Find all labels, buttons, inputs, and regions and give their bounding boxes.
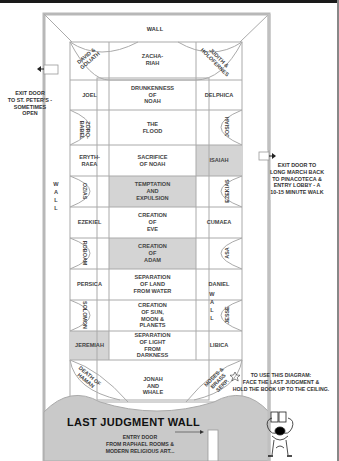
panel-creation-sun-moon: CREATION OF SUN, MOON & PLANETS <box>109 300 196 331</box>
right-jesse: JESSE <box>224 298 230 333</box>
entry-door-note: ENTRY DOOR FROM RAPHAEL ROOMS & MODERN R… <box>80 434 200 454</box>
panel-sacrifice-of-noah: SACRIFICE OF NOAH <box>109 145 196 176</box>
left-roboam: ROBOAM <box>82 236 88 271</box>
left-zorobabel: ZORO- BABEL <box>79 113 91 148</box>
right-asa: ASA <box>224 236 230 271</box>
left-joel: JOEL <box>70 80 109 110</box>
panel-jonah-whale: JONAH AND WHALE <box>120 372 186 400</box>
panel-creation-of-eve: CREATION OF EVE <box>109 207 196 238</box>
right-daniel: DANIEL <box>196 269 242 300</box>
right-cumaea: CUMAEA <box>196 207 242 238</box>
panel-the-flood: THE FLOOD <box>109 110 196 145</box>
instructions-note: TO USE THIS DIAGRAM: FACE THE LAST JUDGM… <box>222 372 339 392</box>
right-ezekias: EZEKIAS <box>224 174 230 209</box>
left-erythraea: ERYTH- RAEA <box>70 145 109 176</box>
panel-separation-land-water: SEPARATION OF LAND FROM WATER <box>109 269 196 300</box>
figure-holding-book-icon <box>267 412 293 456</box>
right-isaiah: ISAIAH <box>196 145 242 176</box>
top-wall-label: WALL <box>140 26 170 33</box>
left-jeremiah: JEREMIAH <box>70 331 109 360</box>
right-delphica: DELPHICA <box>196 80 242 110</box>
left-persica: PERSICA <box>70 269 109 300</box>
panel-separation-light-dark: SEPARATION OF LIGHT FROM DARKNESS <box>109 331 196 360</box>
left-wall-label: W A L L <box>52 180 60 212</box>
exit-left-note: EXIT DOOR TO ST. PETER'S - SOMETIMES OPE… <box>0 90 62 117</box>
exit-right-note: EXIT DOOR TO LONG MARCH BACK TO PINACOTE… <box>252 162 339 196</box>
panel-creation-of-adam: CREATION OF ADAM <box>109 238 196 269</box>
last-judgment-wall-label: LAST JUDGMENT WALL <box>67 416 200 428</box>
left-ezekiel: EZEKIEL <box>70 207 109 238</box>
panel-drunkenness-of-noah: DRUNKENNESS OF NOAH <box>109 80 196 110</box>
left-ozias: OZIAS <box>82 174 88 209</box>
panel-temptation-expulsion: TEMPTATION AND EXPULSION <box>109 176 196 207</box>
right-josiah: JOSIAH <box>224 110 230 145</box>
left-solomon: SOLOMON <box>82 298 88 333</box>
right-libica: LIBICA <box>196 331 242 360</box>
panel-zachariah: ZACHA- RIAH <box>109 42 196 78</box>
